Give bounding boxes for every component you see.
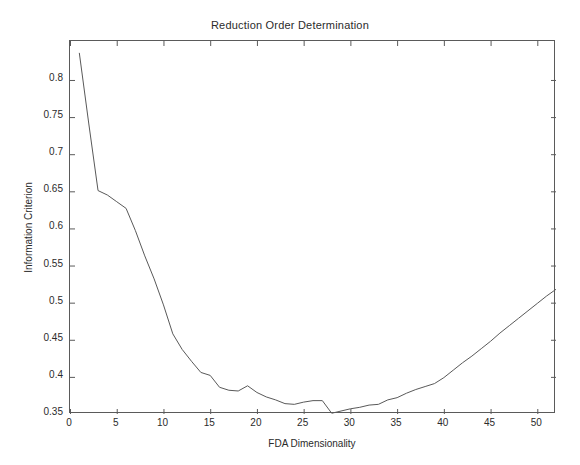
x-tick-label: 20 xyxy=(236,417,276,428)
y-tick-label: 0.5 xyxy=(19,295,63,306)
x-tick-label: 5 xyxy=(96,417,136,428)
y-tick-label: 0.7 xyxy=(19,146,63,157)
x-tick-label: 30 xyxy=(329,417,369,428)
x-tick-label: 35 xyxy=(376,417,416,428)
y-tick-label: 0.8 xyxy=(19,72,63,83)
x-tick-label: 10 xyxy=(142,417,182,428)
y-tick-label: 0.65 xyxy=(19,183,63,194)
y-tick-label: 0.6 xyxy=(19,220,63,231)
x-tick-label: 40 xyxy=(423,417,463,428)
y-tick-label: 0.55 xyxy=(19,258,63,269)
y-tick-label: 0.4 xyxy=(19,369,63,380)
x-tick-label: 15 xyxy=(189,417,229,428)
x-tick-label: 50 xyxy=(516,417,556,428)
chart-title: Reduction Order Determination xyxy=(0,19,580,31)
x-axis-label: FDA Dimensionality xyxy=(69,438,555,449)
data-series-line xyxy=(79,53,556,413)
y-tick-label: 0.35 xyxy=(19,406,63,417)
x-tick-label: 45 xyxy=(470,417,510,428)
x-tick-label: 25 xyxy=(283,417,323,428)
y-tick-label: 0.45 xyxy=(19,332,63,343)
chart-figure: Reduction Order Determination Informatio… xyxy=(0,0,580,465)
plot-canvas xyxy=(70,41,556,414)
y-tick-label: 0.75 xyxy=(19,109,63,120)
axis-tick-marks xyxy=(70,41,556,414)
x-tick-label: 0 xyxy=(49,417,89,428)
plot-area xyxy=(69,40,555,413)
